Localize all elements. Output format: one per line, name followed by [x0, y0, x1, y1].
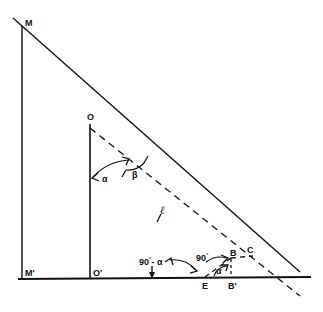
length-label-l: ℓ — [160, 205, 165, 216]
point-label-B: B — [230, 249, 237, 258]
beta-tick-upper — [144, 156, 148, 163]
ray-O-through-E-to-right — [90, 128, 300, 296]
degree-symbol: ° — [206, 252, 208, 258]
angle-value-90: 90 — [196, 253, 206, 263]
point-label-O: O — [87, 113, 94, 122]
ninety-minus-alpha-arc-at-E — [170, 260, 196, 270]
angle-label-ninety-at-B: 90° — [196, 252, 208, 263]
angle-minus-alpha: - α — [151, 257, 162, 267]
dashed-lines — [90, 128, 300, 296]
angle-label-beta-at-O: β — [132, 171, 138, 180]
beta-tick-lower — [122, 170, 126, 177]
solid-lines — [13, 18, 311, 279]
angle-label-alpha-at-O: α — [102, 175, 108, 184]
ninety-minus-alpha-arrow-left — [165, 258, 173, 265]
ninety-arrow-head-at-B — [221, 255, 228, 263]
point-label-Mprime: M' — [25, 269, 35, 278]
angle-value-90: 90 — [139, 257, 149, 267]
point-label-C: C — [247, 246, 254, 255]
point-label-Oprime: O' — [93, 269, 102, 278]
point-label-M: M — [25, 19, 33, 28]
sight-line-M-C — [13, 18, 300, 272]
angle-label-alpha-at-Bprime: α — [216, 267, 222, 276]
baseline — [18, 277, 311, 279]
angle-label-ninety-minus-alpha-at-E: 90°- α — [139, 256, 162, 267]
point-label-E: E — [202, 282, 208, 291]
point-label-Bprime: B' — [228, 282, 237, 291]
